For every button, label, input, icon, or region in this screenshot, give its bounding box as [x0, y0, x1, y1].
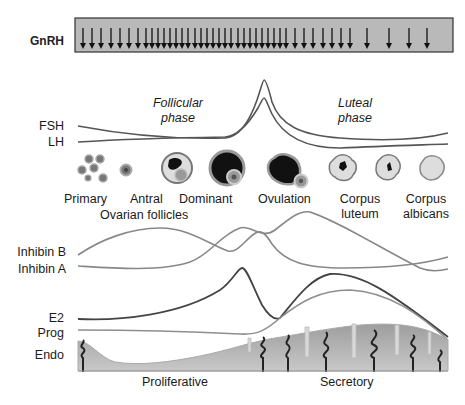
fsh-label: FSH — [0, 119, 64, 133]
luteal-phase-label: Luteal phase — [325, 96, 385, 126]
corpus-luteum-label: Corpus luteum — [335, 192, 385, 222]
ovulation-follicle-icon — [268, 154, 308, 187]
lh-curve — [78, 98, 448, 148]
corpus-luteum-line1: Corpus — [335, 192, 385, 207]
follicular-phase-line1: Follicular — [143, 96, 213, 111]
secretory-label: Secretory — [320, 375, 374, 389]
fsh-curve — [78, 80, 448, 140]
inhibin-a-label: Inhibin A — [0, 262, 66, 276]
endo-label: Endo — [0, 348, 64, 362]
corpus-luteum-late-icon — [376, 155, 400, 180]
ovarian-follicles-label: Ovarian follicles — [100, 208, 188, 222]
luteal-phase-line1: Luteal — [325, 96, 385, 111]
e2-label: E2 — [0, 311, 64, 325]
luteal-phase-line2: phase — [325, 111, 385, 126]
corpus-albicans-label: Corpus albicans — [398, 192, 454, 222]
prog-label: Prog — [0, 326, 64, 340]
antral-follicle-icon — [121, 165, 132, 176]
proliferative-label: Proliferative — [142, 375, 208, 389]
follicular-phase-label: Follicular phase — [143, 96, 213, 126]
dominant-label: Dominant — [179, 192, 233, 206]
ovulation-label: Ovulation — [258, 192, 311, 206]
inhibin-b-label: Inhibin B — [0, 245, 66, 259]
dominant-follicle-icon — [210, 151, 244, 185]
primary-follicles-icon — [78, 155, 107, 182]
primary-label: Primary — [64, 192, 107, 206]
antral-label: Antral — [130, 192, 163, 206]
lh-label: LH — [0, 135, 64, 149]
corpus-albicans-line1: Corpus — [398, 192, 454, 207]
corpus-luteum-line2: luteum — [335, 207, 385, 222]
follicular-phase-line2: phase — [143, 111, 213, 126]
corpus-albicans-icon — [420, 156, 444, 180]
dominant-follicle-small-icon — [162, 153, 192, 183]
inhibin-b-curve — [78, 228, 448, 268]
corpus-albicans-line2: albicans — [398, 207, 454, 222]
corpus-luteum-icon — [329, 155, 356, 181]
